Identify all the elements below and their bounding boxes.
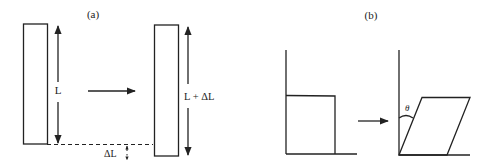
extension-label-dl: ΔL (104, 148, 117, 159)
strain-diagram: (a) L L + ΔL ΔL (b) (0, 0, 493, 166)
undeformed-square (286, 50, 357, 154)
shear-angle-arc (399, 116, 413, 119)
stretched-bar (155, 25, 179, 156)
panel-b-label: (b) (365, 9, 378, 22)
length-label-l-plus-dl: L + ΔL (184, 91, 214, 102)
panel-a: (a) L L + ΔL ΔL (24, 8, 215, 160)
shear-angle-label: θ (405, 103, 410, 113)
sheared-parallelogram (399, 50, 470, 155)
panel-b: (b) θ (286, 9, 470, 155)
length-label-l: L (55, 84, 62, 96)
panel-a-label: (a) (87, 8, 100, 21)
original-bar (24, 24, 48, 144)
